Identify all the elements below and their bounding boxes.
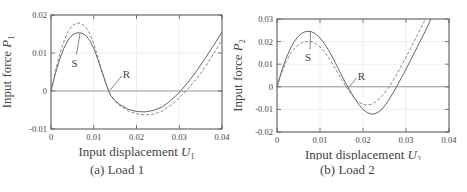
annotation-S: S xyxy=(305,51,311,63)
x-tick-label: 0.02 xyxy=(356,135,371,145)
y-axis-label: Input force P2 xyxy=(232,39,247,112)
x-tick-label: 0.01 xyxy=(86,132,101,142)
y-tick-label: -0.02 xyxy=(255,127,273,137)
annotation-S: S xyxy=(72,57,78,69)
y-tick-label: 0 xyxy=(269,82,273,92)
y-tick-label: 0.02 xyxy=(32,10,47,20)
caption-load-2: (b) Load 2 xyxy=(320,162,375,178)
x-tick-label: 0 xyxy=(49,132,53,142)
x-tick-label: 0.03 xyxy=(399,135,414,145)
chart-load-1: 00.010.020.030.04-0.0100.010.02SRInput d… xyxy=(0,0,235,160)
x-tick-label: 0.04 xyxy=(215,132,231,142)
y-tick-label: 0.01 xyxy=(258,59,273,69)
chart-panel-load-1: 00.010.020.030.04-0.0100.010.02SRInput d… xyxy=(0,0,235,192)
chart-panel-load-2: 00.010.020.030.04-0.02-0.0100.010.020.03… xyxy=(232,0,467,192)
y-tick-label: 0.02 xyxy=(258,37,273,47)
x-tick-label: 0.01 xyxy=(313,135,328,145)
x-tick-label: 0.02 xyxy=(129,132,144,142)
x-axis-label: Input displacement U1 xyxy=(79,144,195,160)
x-tick-label: 0.04 xyxy=(442,135,458,145)
y-tick-label: 0.01 xyxy=(32,48,47,58)
x-tick-label: 0 xyxy=(275,135,279,145)
caption-load-1: (a) Load 1 xyxy=(90,162,144,178)
annotation-R: R xyxy=(123,68,131,80)
y-tick-label: 0 xyxy=(43,86,47,96)
x-tick-label: 0.03 xyxy=(172,132,187,142)
x-axis-label: Input displacement U2 xyxy=(305,147,421,160)
annotation-R: R xyxy=(358,70,366,82)
series-group xyxy=(277,19,431,114)
y-axis-label: Input force P1 xyxy=(0,36,16,109)
y-tick-label: 0.03 xyxy=(258,14,273,24)
series-solid xyxy=(277,19,431,114)
y-tick-label: -0.01 xyxy=(255,104,273,114)
y-tick-label: -0.01 xyxy=(29,124,47,134)
chart-load-2: 00.010.020.030.04-0.02-0.0100.010.020.03… xyxy=(232,0,467,160)
